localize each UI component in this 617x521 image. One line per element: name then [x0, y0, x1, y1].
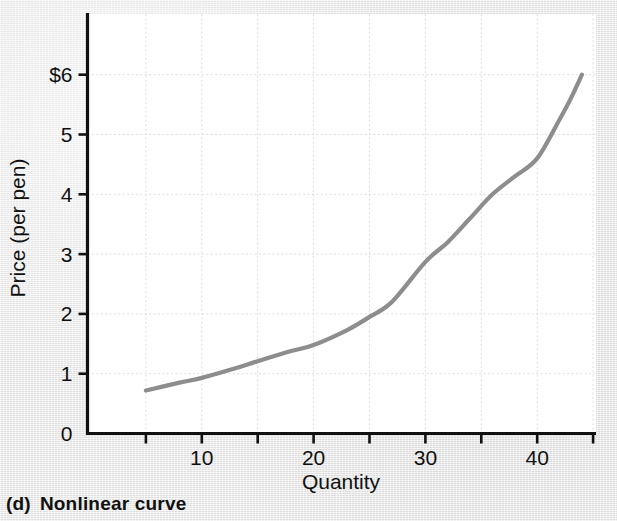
x-tick-label: 20 — [302, 446, 325, 469]
y-tick-label: 3 — [61, 243, 73, 266]
y-tick-label: 4 — [61, 183, 73, 206]
x-tick-labels: 10203040 — [190, 446, 549, 469]
y-tick-label: 2 — [61, 302, 73, 325]
y-tick-label: $6 — [49, 63, 72, 86]
y-tick-label: 1 — [61, 362, 73, 385]
y-tick-labels: 012345$6 — [49, 63, 73, 445]
x-axis-title: Quantity — [302, 470, 381, 493]
x-tick-label: 10 — [190, 446, 213, 469]
caption-text: Nonlinear curve — [40, 493, 187, 514]
nonlinear-curve-figure: 012345$6 10203040 Quantity Price (per pe… — [0, 0, 617, 521]
y-tick-label: 0 — [61, 422, 73, 445]
x-tick-label: 30 — [414, 446, 437, 469]
figure-caption: (d)Nonlinear curve — [6, 493, 186, 515]
plot-area-background — [86, 14, 596, 435]
x-tick-label: 40 — [526, 446, 549, 469]
caption-tag: (d) — [6, 493, 31, 514]
y-tick-label: 5 — [61, 123, 73, 146]
y-axis-title: Price (per pen) — [6, 159, 29, 298]
chart-canvas: 012345$6 10203040 Quantity Price (per pe… — [0, 0, 617, 521]
